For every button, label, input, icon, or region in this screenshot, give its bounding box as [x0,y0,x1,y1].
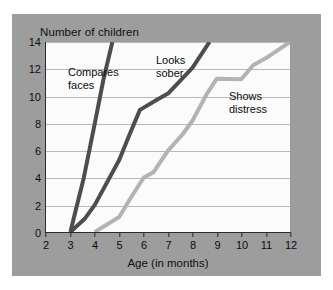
x-axis-tick-label: 9 [214,239,220,251]
y-axis-tick-label: 10 [29,91,41,103]
x-axis-tick-mark [217,232,218,237]
series-label-looks-sober: Looks sober [156,54,185,79]
y-axis-tick-label: 4 [35,172,41,184]
y-axis-tick-label: 2 [35,200,41,212]
chart-title: Number of children [40,26,139,38]
x-axis-tick-label: 12 [285,239,297,251]
x-axis-tick-label: 10 [236,239,248,251]
x-axis-tick-label: 4 [92,239,98,251]
y-axis-tick-label: 12 [29,63,41,75]
x-axis-tick-label: 11 [261,239,272,251]
x-axis-tick-label: 5 [116,239,122,251]
x-axis-tick-label: 7 [165,239,171,251]
x-axis-tick-label: 8 [190,239,196,251]
x-axis-tick-mark [192,232,193,237]
y-axis-tick-label: 8 [35,118,41,130]
x-axis-tick-label: 3 [67,239,73,251]
series-label-shows-distress: Shows distress [229,90,267,115]
x-axis-tick-mark [45,232,46,237]
x-axis-tick-mark [168,232,169,237]
y-axis-tick-label: 14 [29,36,41,48]
x-axis-tick-mark [70,232,71,237]
x-axis-tick-mark [241,232,242,237]
x-axis-tick-mark [143,232,144,237]
chart-figure: Number of children 02468101214 234567891… [12,14,321,276]
series-label-compares-faces: Compares faces [68,66,119,91]
x-axis-tick-label: 2 [43,239,49,251]
x-axis-tick-mark [290,232,291,237]
x-axis-tick-mark [94,232,95,237]
x-axis-tick-label: 6 [141,239,147,251]
x-axis-tick-mark [266,232,267,237]
x-axis-tick-mark [119,232,120,237]
x-axis-title: Age (in months) [46,257,290,269]
y-axis-tick-label: 0 [35,227,41,239]
y-axis-tick-label: 6 [35,145,41,157]
plot-area: 02468101214 23456789101112 Compares face… [45,42,290,233]
